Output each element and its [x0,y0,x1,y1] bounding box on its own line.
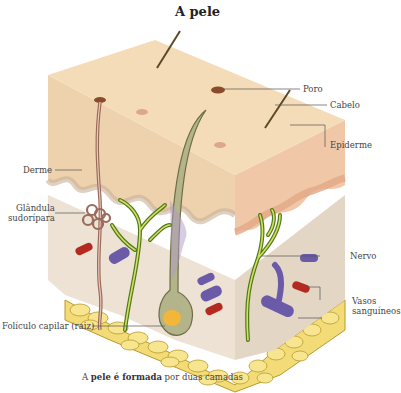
label-derme: Derme [23,165,52,175]
pore [211,87,225,94]
label-vasos-line2: sanguíneos [352,306,401,316]
label-glandula-sudoripara: Glândula sudorípara [8,203,55,223]
label-poro: Poro [303,84,323,94]
label-nervo: Nervo [350,251,376,261]
label-vasos-line1: Vasos [352,296,401,306]
label-foliculo-capilar: Folículo capilar (raiz) [2,321,94,331]
label-vasos-sanguineos: Vasos sanguíneos [352,296,401,316]
label-glandula-line1: Glândula [8,203,55,213]
label-glandula-line2: sudorípara [8,213,55,223]
label-epiderme: Epiderme [330,140,372,150]
caption-prefix: A [82,372,91,382]
label-cabelo: Cabelo [330,100,360,110]
caption-suffix: por duas camadas [162,372,243,382]
follicle-root [163,310,181,326]
caption-bold: pele é formada [91,372,162,382]
caption: A pele é formada por duas camadas [82,372,243,382]
